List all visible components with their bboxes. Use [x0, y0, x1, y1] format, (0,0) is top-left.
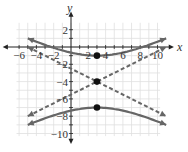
x-tick-label: −6 [13, 49, 25, 61]
data-point [94, 104, 101, 111]
y-tick-label: −6 [56, 93, 68, 105]
arrow-icon [28, 111, 35, 116]
data-point [94, 78, 101, 85]
x-tick-label: 6 [120, 49, 126, 61]
y-tick-label: −4 [56, 76, 68, 88]
grid [17, 23, 161, 136]
y-tick-label: −10 [51, 128, 69, 140]
x-tick-label: 2 [86, 49, 92, 61]
x-tick-label: 10 [152, 49, 164, 61]
x-tick-label: 4 [103, 49, 109, 61]
x-axis-label: x [176, 40, 183, 54]
data-point [94, 52, 101, 59]
x-tick-label: 8 [137, 49, 143, 61]
y-arrow-icon [69, 139, 74, 144]
y-tick-label: 2 [63, 24, 69, 36]
y-tick-label: −8 [56, 110, 68, 122]
hyperbola-graph: −6−4−22468102−2−4−6−8−10 x y [0, 0, 188, 152]
x-tick-label: −4 [31, 49, 43, 61]
x-arrow-icon [169, 45, 174, 50]
y-tick-label: −2 [56, 58, 68, 70]
y-axis-label: y [66, 1, 73, 15]
x-arrow-icon [3, 45, 8, 50]
arrow-icon [159, 111, 166, 116]
